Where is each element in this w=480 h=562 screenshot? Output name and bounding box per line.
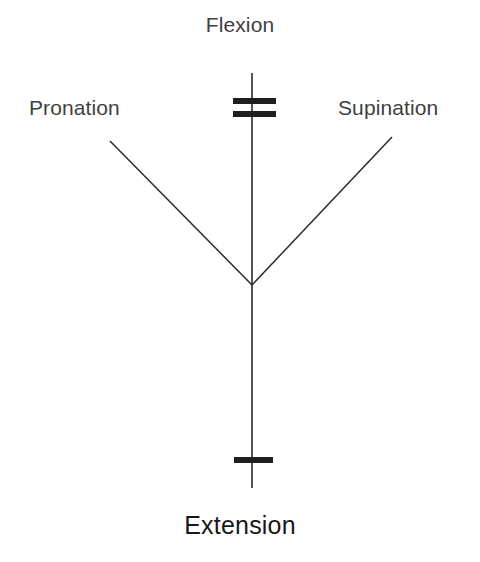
label-flexion: Flexion	[0, 14, 480, 35]
pronation-arm-line	[110, 141, 252, 285]
diagram-canvas: Flexion Pronation Supination Extension	[0, 0, 480, 562]
supination-arm-line	[252, 137, 392, 285]
label-extension: Extension	[0, 513, 480, 538]
motion-axis-diagram	[0, 0, 480, 562]
label-pronation: Pronation	[29, 97, 120, 118]
label-supination: Supination	[338, 97, 438, 118]
